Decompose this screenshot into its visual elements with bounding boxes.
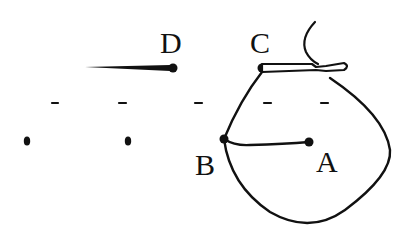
label-d: D [160, 26, 182, 59]
curve-mark [304, 22, 318, 64]
loop-curve [224, 72, 390, 223]
label-a: A [316, 145, 338, 178]
line-b-a [224, 139, 309, 145]
dot [125, 137, 131, 146]
line-to-d [85, 65, 170, 71]
dot [24, 137, 30, 146]
point-b [220, 135, 229, 144]
pin-shape [262, 63, 347, 72]
point-d [169, 64, 178, 73]
label-b: B [195, 148, 215, 181]
diagram-canvas: D C B A [0, 0, 411, 240]
label-c: C [250, 26, 270, 59]
diagram-svg: D C B A [0, 0, 411, 240]
point-a [305, 138, 314, 147]
